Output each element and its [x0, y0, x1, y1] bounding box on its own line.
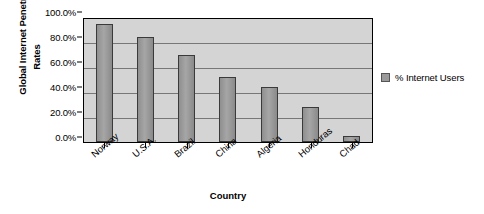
y-axis-ticks: 100.0% 80.0% 60.0% 40.0% 20.0% 0.0%: [38, 12, 82, 144]
y-tick-label-40: 40.0%: [50, 82, 76, 93]
bar-slot: [166, 19, 207, 142]
legend-swatch-internet-users: [381, 73, 390, 82]
y-tick-label-60: 60.0%: [50, 57, 76, 68]
x-axis-title: Country: [83, 190, 373, 201]
y-tick-label-0: 0.0%: [55, 132, 76, 143]
y-tick-mark-20: [77, 112, 82, 113]
y-tick-mark-0: [77, 137, 82, 138]
legend: % Internet Users: [381, 72, 464, 83]
y-tick-label-20: 20.0%: [50, 107, 76, 118]
plot-area: [83, 18, 373, 143]
bar-chart: Global Internet Penetration Rates 100.0%…: [0, 0, 484, 214]
y-tick-mark-80: [77, 37, 82, 38]
bar[interactable]: [137, 37, 154, 142]
bar-slot: [249, 19, 290, 142]
bar[interactable]: [96, 24, 113, 142]
y-tick-label-80: 80.0%: [50, 32, 76, 43]
bar[interactable]: [178, 55, 195, 142]
bar[interactable]: [219, 77, 236, 142]
bar-slot: [125, 19, 166, 142]
bar-slot: [84, 19, 125, 142]
bar-series: [84, 19, 372, 142]
y-tick-mark-60: [77, 62, 82, 63]
bar-slot: [331, 19, 372, 142]
legend-label-internet-users: % Internet Users: [395, 72, 464, 83]
y-tick-mark-100: [77, 12, 82, 13]
bar-slot: [207, 19, 248, 142]
bar-slot: [290, 19, 331, 142]
y-tick-label-100: 100.0%: [45, 7, 76, 18]
x-axis-labels: NorwayU.S.A.BrazilChinaAlgeriaHondurasCh…: [83, 149, 373, 189]
y-tick-mark-40: [77, 87, 82, 88]
